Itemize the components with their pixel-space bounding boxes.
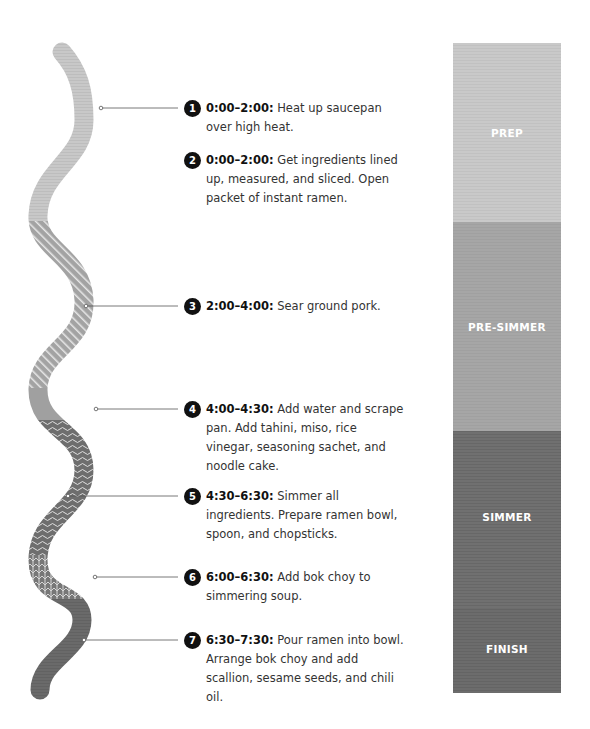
step-time: 6:00–6:30:: [206, 570, 274, 584]
step-number-badge: 5: [184, 488, 201, 505]
phase-prep: PREP: [453, 43, 561, 222]
step-time: 4:30–6:30:: [206, 489, 274, 503]
step-1: 1 0:00–2:00: Heat up saucepan over high …: [184, 99, 404, 137]
step-number-badge: 6: [184, 569, 201, 586]
step-number-badge: 4: [184, 401, 201, 418]
phase-simmer: SIMMER: [453, 431, 561, 608]
phase-bar: PREP PRE-SIMMER SIMMER FINISH: [453, 43, 561, 693]
step-7: 7 6:30–7:30: Pour ramen into bowl. Arran…: [184, 631, 404, 707]
phase-finish: FINISH: [453, 608, 561, 693]
phase-label: PREP: [491, 127, 523, 139]
step-text: Sear ground pork.: [277, 299, 381, 313]
ramen-timeline-diagram: 1 0:00–2:00: Heat up saucepan over high …: [0, 0, 590, 729]
phase-label: SIMMER: [482, 511, 531, 523]
step-number-badge: 7: [184, 632, 201, 649]
step-time: 0:00–2:00:: [206, 153, 274, 167]
phase-label: FINISH: [486, 643, 528, 655]
step-5: 5 4:30–6:30: Simmer all ingredients. Pre…: [184, 487, 404, 544]
step-2: 2 0:00–2:00: Get ingredients lined up, m…: [184, 151, 404, 208]
step-time: 6:30–7:30:: [206, 633, 274, 647]
step-time: 4:00–4:30:: [206, 402, 274, 416]
step-time: 0:00–2:00:: [206, 101, 274, 115]
step-6: 6 6:00–6:30: Add bok choy to simmering s…: [184, 568, 404, 606]
step-4: 4 4:00–4:30: Add water and scrape pan. A…: [184, 400, 404, 476]
step-3: 3 2:00–4:00: Sear ground pork.: [184, 297, 404, 316]
step-number-badge: 1: [184, 100, 201, 117]
step-number-badge: 2: [184, 152, 201, 169]
phase-label: PRE-SIMMER: [468, 321, 546, 333]
phase-pre-simmer: PRE-SIMMER: [453, 222, 561, 431]
step-number-badge: 3: [184, 298, 201, 315]
step-time: 2:00–4:00:: [206, 299, 274, 313]
